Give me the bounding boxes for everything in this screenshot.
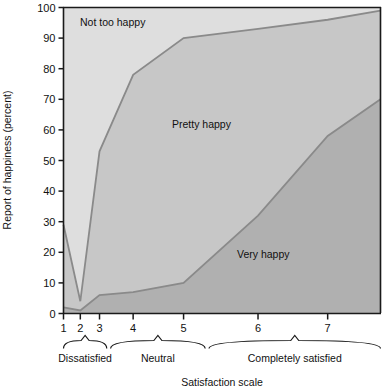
chart-canvas: 0102030405060708090100 1234567 Dissatisf…: [0, 0, 391, 392]
happiness-satisfaction-area-chart: 0102030405060708090100 1234567 Dissatisf…: [0, 0, 391, 392]
x-tick-label: 1: [60, 322, 66, 334]
y-tick-label: 50: [43, 155, 55, 167]
y-tick-label: 80: [43, 63, 55, 75]
plot-areas: [64, 8, 381, 314]
group-bracket-label: Dissatisfied: [58, 352, 112, 364]
label-pretty-happy: Pretty happy: [172, 118, 232, 130]
x-axis-title: Satisfaction scale: [181, 376, 263, 388]
y-tick-label: 60: [43, 124, 55, 136]
x-tick-label: 5: [181, 322, 187, 334]
y-tick-label: 90: [43, 32, 55, 44]
x-tick-label: 3: [96, 322, 102, 334]
x-tick-label: 2: [77, 322, 83, 334]
x-tick-label: 6: [255, 322, 261, 334]
y-tick-label: 100: [37, 2, 55, 14]
y-tick-label: 40: [43, 185, 55, 197]
y-tick-label: 70: [43, 93, 55, 105]
group-bracket-label: Completely satisfied: [248, 352, 342, 364]
group-bracket-label: Neutral: [141, 352, 175, 364]
label-very-happy: Very happy: [237, 248, 290, 260]
y-axis-title: Report of happiness (percent): [1, 91, 13, 230]
y-tick-label: 30: [43, 216, 55, 228]
label-not-too-happy: Not too happy: [80, 16, 146, 28]
y-tick-label: 20: [43, 246, 55, 258]
x-tick-label: 4: [130, 322, 136, 334]
y-tick-label: 10: [43, 277, 55, 289]
x-tick-label: 7: [325, 322, 331, 334]
y-tick-label: 0: [49, 308, 55, 320]
